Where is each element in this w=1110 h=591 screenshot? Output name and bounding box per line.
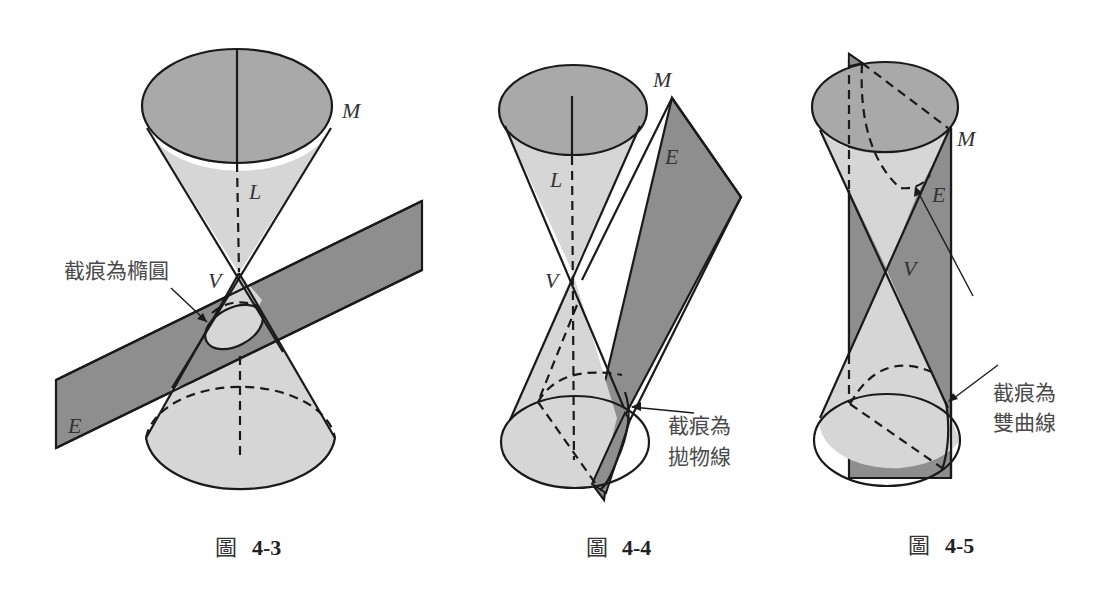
label-E: E bbox=[67, 413, 82, 438]
label-L: L bbox=[549, 167, 562, 192]
label-V: V bbox=[545, 268, 561, 293]
label-E: E bbox=[931, 182, 946, 207]
figure-4-5: M E V 截痕為 雙曲線 圖 4-5 bbox=[812, 54, 1056, 558]
caption-glyph: 圖 bbox=[215, 535, 237, 560]
label-E: E bbox=[664, 144, 679, 169]
label-L: L bbox=[248, 179, 261, 204]
label-M: M bbox=[341, 98, 362, 123]
annotation-line2: 拋物線 bbox=[668, 445, 731, 469]
annotation-line1: 截痕為 bbox=[668, 414, 731, 438]
caption-number: 4-5 bbox=[945, 533, 974, 558]
caption-glyph: 圖 bbox=[908, 533, 930, 558]
label-M: M bbox=[652, 67, 673, 92]
figure-4-4: M L V E 截痕為 拋物線 圖 4-4 bbox=[499, 65, 741, 560]
annotation-arrow bbox=[632, 407, 694, 413]
annotation-arrow-lower bbox=[950, 365, 998, 401]
label-M: M bbox=[956, 126, 977, 151]
label-V: V bbox=[208, 268, 224, 293]
annotation-line2: 雙曲線 bbox=[993, 411, 1056, 435]
lower-nappe bbox=[500, 273, 617, 489]
conic-sections-diagram: M L V E 截痕為橢圓 圖 4-3 bbox=[0, 0, 1110, 591]
figure-4-3: M L V E 截痕為橢圓 圖 4-3 bbox=[56, 49, 422, 560]
caption-number: 4-4 bbox=[622, 535, 651, 560]
caption-number: 4-3 bbox=[252, 535, 281, 560]
annotation-ellipse: 截痕為橢圓 bbox=[64, 259, 169, 283]
caption-glyph: 圖 bbox=[586, 535, 608, 560]
annotation-line1: 截痕為 bbox=[993, 381, 1056, 405]
